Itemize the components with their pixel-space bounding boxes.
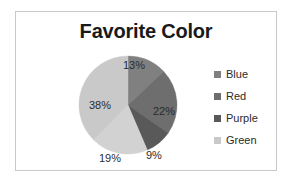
pie-slice-label: 19% — [99, 152, 121, 164]
legend-item-label: Red — [226, 90, 246, 102]
pie-slice-label: 9% — [146, 149, 162, 161]
pie-slice-label: 13% — [123, 59, 145, 71]
chart-frame: Favorite Color 13%22%9%19%38% BlueRedPur… — [15, 11, 277, 171]
pie-slice-label: 22% — [153, 105, 175, 117]
legend-item-label: Purple — [226, 112, 258, 124]
legend-swatch-icon — [214, 115, 221, 122]
legend-swatch-icon — [214, 71, 221, 78]
chart-title: Favorite Color — [16, 20, 276, 43]
chart-legend: BlueRedPurpleGreen — [214, 63, 284, 151]
legend-item-label: Green — [226, 134, 257, 146]
legend-item-green[interactable]: Green — [214, 129, 284, 151]
legend-swatch-icon — [214, 137, 221, 144]
legend-item-red[interactable]: Red — [214, 85, 284, 107]
legend-swatch-icon — [214, 93, 221, 100]
legend-item-blue[interactable]: Blue — [214, 63, 284, 85]
legend-item-purple[interactable]: Purple — [214, 107, 284, 129]
pie-slice-label: 38% — [89, 99, 111, 111]
legend-item-label: Blue — [226, 68, 248, 80]
